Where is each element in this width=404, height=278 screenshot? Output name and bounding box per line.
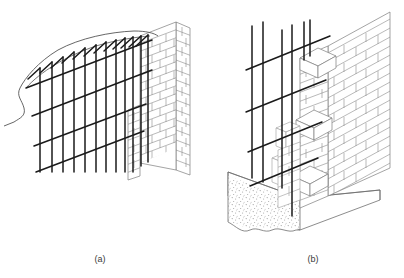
- panel-a-brick-face: [176, 22, 192, 175]
- figure-root: (a): [0, 0, 404, 278]
- panel-a-brick-step: [126, 105, 142, 180]
- panel-a-brick-return: [138, 22, 178, 180]
- panel-a-caption: (a): [95, 254, 106, 264]
- construction-detail-illustration: (a): [0, 0, 404, 278]
- panel-b-pilaster-column: [276, 142, 302, 208]
- panel-b-caption: (b): [308, 254, 319, 264]
